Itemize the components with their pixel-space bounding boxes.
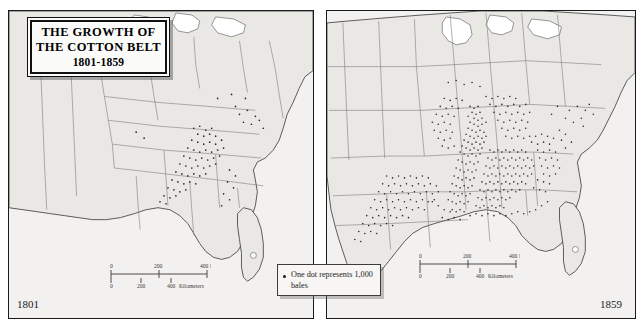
scale-miles-tick-1: 200 xyxy=(154,263,163,269)
scale-miles-tick-0: 0 xyxy=(110,263,113,269)
scale-km-tick-1: 200 xyxy=(137,283,146,289)
scale-miles-tick-2: 400 xyxy=(200,263,209,269)
scale-miles-unit: Miles xyxy=(210,263,211,269)
map-title-line-1: THE GROWTH OF xyxy=(41,25,155,40)
map-title-line-3: 1801-1859 xyxy=(73,55,125,69)
map-title-cartouche: THE GROWTH OF THE COTTON BELT 1801-1859 xyxy=(27,17,170,77)
scale-bar-svg-1859: 0 200 400 Miles 0 200 400 Kilometers xyxy=(416,251,520,281)
scale-km-tick-2: 400 xyxy=(167,283,176,289)
scale-miles-tick-1: 200 xyxy=(463,253,472,259)
year-label-1801: 1801 xyxy=(17,298,39,310)
map-title-line-2: THE COTTON BELT xyxy=(36,40,161,55)
map-title-inner: THE GROWTH OF THE COTTON BELT 1801-1859 xyxy=(30,20,167,74)
landmass-1859 xyxy=(327,11,635,283)
legend-label: One dot represents 1,000 bales xyxy=(291,269,375,291)
scale-km-unit: Kilometers xyxy=(488,273,513,279)
scale-bar-1801: 0 200 400 Miles 0 200 400 Kilometers xyxy=(107,261,211,291)
cotton-belt-figure: 0 200 400 Miles 0 200 400 Kilometers xyxy=(0,0,644,329)
scale-km-tick-0: 0 xyxy=(110,283,113,289)
scale-miles-unit: Miles xyxy=(519,253,520,259)
map-legend: One dot represents 1,000 bales xyxy=(277,264,381,296)
scale-km-unit: Kilometers xyxy=(179,283,204,289)
scale-bar-svg-1801: 0 200 400 Miles 0 200 400 Kilometers xyxy=(107,261,211,291)
scale-miles-tick-2: 400 xyxy=(509,253,518,259)
scale-miles-tick-0: 0 xyxy=(419,253,422,259)
scale-km-tick-0: 0 xyxy=(419,273,422,279)
scale-km-tick-1: 200 xyxy=(446,273,455,279)
year-label-1859: 1859 xyxy=(600,298,622,310)
scale-bar-1859: 0 200 400 Miles 0 200 400 Kilometers xyxy=(416,251,520,281)
legend-dot-icon xyxy=(283,275,286,278)
scale-km-tick-2: 400 xyxy=(476,273,485,279)
